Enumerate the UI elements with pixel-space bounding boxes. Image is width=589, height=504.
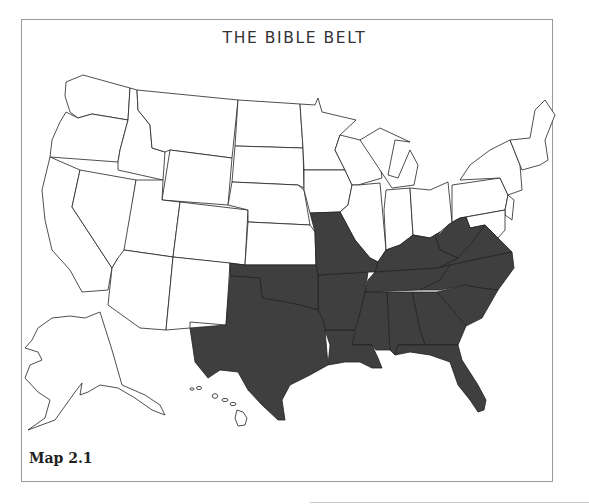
state-north-dakota xyxy=(235,100,303,148)
state-south-dakota xyxy=(232,146,304,188)
state-alaska xyxy=(25,312,165,430)
state-colorado xyxy=(173,202,248,265)
state-washington xyxy=(65,75,130,120)
state-arizona xyxy=(108,250,173,330)
map-caption: Map 2.1 xyxy=(29,450,93,466)
map-title: THE BIBLE BELT xyxy=(0,29,589,47)
state-hawaii xyxy=(190,386,247,426)
page-divider xyxy=(310,502,589,503)
state-oregon xyxy=(50,112,128,162)
state-wyoming xyxy=(162,150,232,205)
state-iowa xyxy=(304,170,352,213)
state-new-mexico xyxy=(166,257,230,330)
state-montana xyxy=(137,90,238,158)
state-florida xyxy=(395,345,486,412)
state-kansas xyxy=(245,222,316,265)
us-map xyxy=(0,0,589,504)
